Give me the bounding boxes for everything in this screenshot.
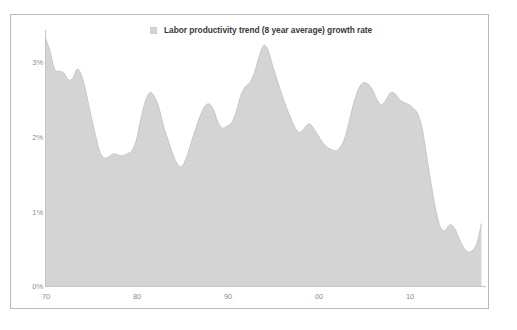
area-series-path [46,38,482,286]
x-tick-label-90: 90 [216,292,240,301]
x-tick-label-70: 70 [34,292,58,301]
chart-plot-area: 3% 2% 1% 0% 70 80 90 00 10 Labor product… [0,0,517,330]
y-tick-label-1: 1% [21,208,43,217]
x-tick-label-80: 80 [125,292,149,301]
y-axis-line [45,30,46,287]
legend-swatch-icon [150,27,157,34]
area-series-svg [0,0,517,330]
x-tick-label-00: 00 [307,292,331,301]
x-axis-line [45,286,486,287]
chart-legend: Labor productivity trend (8 year average… [150,25,372,35]
y-tick-label-0: 0% [21,282,43,291]
y-tick-label-3: 3% [21,58,43,67]
y-tick-label-2: 2% [21,133,43,142]
legend-label: Labor productivity trend (8 year average… [164,25,372,35]
x-tick-label-10: 10 [398,292,422,301]
